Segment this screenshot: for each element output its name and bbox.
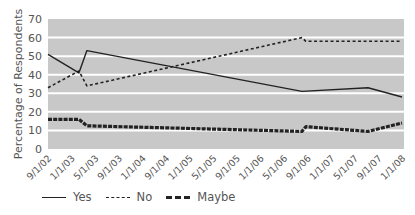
legend-item-no: No xyxy=(106,190,153,204)
legend-label: Yes xyxy=(73,190,92,204)
x-tick-label: 1/1/06 xyxy=(236,153,265,182)
y-tick-label: 60 xyxy=(28,32,42,45)
y-tick-label: 20 xyxy=(28,106,42,119)
x-tick-label: 1/1/05 xyxy=(166,153,195,182)
legend-label: No xyxy=(137,190,153,204)
x-tick-label: 9/1/02 xyxy=(24,153,53,182)
legend-item-yes: Yes xyxy=(42,190,92,204)
line-chart: 010203040506070Percentage of Respondents… xyxy=(0,0,415,215)
x-tick-label: 1/1/03 xyxy=(48,153,77,182)
chart-legend: Yes No Maybe xyxy=(42,190,235,204)
y-axis-label: Percentage of Respondents xyxy=(12,8,25,159)
x-tick-label: 5/1/03 xyxy=(71,153,100,182)
thick-dashed-line-swatch-icon xyxy=(166,196,190,199)
x-tick-label: 1/1/07 xyxy=(307,153,336,182)
y-tick-label: 40 xyxy=(28,69,42,82)
y-tick-label: 0 xyxy=(35,143,42,156)
dotted-line-swatch-icon xyxy=(106,197,130,198)
x-tick-label: 1/1/08 xyxy=(378,153,407,182)
x-tick-label: 1/1/04 xyxy=(118,153,147,182)
solid-line-swatch-icon xyxy=(42,197,66,198)
x-tick-label: 5/1/05 xyxy=(189,153,218,182)
x-tick-label: 9/1/03 xyxy=(95,153,124,182)
x-tick-label: 9/1/04 xyxy=(142,153,171,182)
y-tick-label: 30 xyxy=(28,87,42,100)
y-tick-label: 10 xyxy=(28,124,42,137)
y-tick-label: 50 xyxy=(28,50,42,63)
x-tick-label: 5/1/06 xyxy=(260,153,289,182)
x-tick-label: 5/1/07 xyxy=(331,153,360,182)
y-tick-label: 70 xyxy=(28,13,42,26)
x-tick-label: 9/1/07 xyxy=(354,153,383,182)
legend-label: Maybe xyxy=(197,190,235,204)
legend-item-maybe: Maybe xyxy=(166,190,235,204)
chart-plot: 010203040506070Percentage of Respondents… xyxy=(0,0,415,190)
x-tick-label: 9/1/05 xyxy=(213,153,242,182)
x-tick-label: 9/1/06 xyxy=(284,153,313,182)
